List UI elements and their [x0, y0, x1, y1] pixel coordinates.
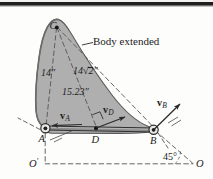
vector-label-vA: vA [60, 111, 70, 122]
dimension-label-CB: 14√2″ [73, 66, 98, 76]
angle-label-45: 45° [163, 152, 177, 162]
point-label-C: C [50, 21, 57, 32]
page-edge-artifact [0, 0, 213, 6]
dimension-label-CA: 14″ [41, 68, 55, 78]
radical-overbar [88, 67, 93, 68]
dimension-CB-prefix: 14 [73, 65, 83, 76]
vector-vA-subscript: A [65, 114, 70, 123]
point-label-A: A [39, 134, 45, 145]
vector-vB-subscript: B [162, 101, 167, 110]
point-label-O: O [196, 159, 204, 170]
body-extended-label: Body extended [93, 36, 159, 47]
pin-joint-A [41, 124, 50, 133]
point-label-D: D [92, 135, 100, 146]
figure-container: C A D B O′ O 14″ 14√2″ 15.23″ vA vD vB B… [0, 0, 213, 179]
vector-label-vB: vB [157, 98, 167, 109]
vector-label-vD: vD [103, 105, 114, 116]
dimension-CB-suffix: ″ [94, 65, 98, 76]
dimension-label-CD: 15.23″ [62, 87, 89, 97]
point-label-B: B [150, 136, 156, 147]
prime-mark: ′ [37, 157, 39, 166]
vector-vD-subscript: D [108, 108, 113, 117]
leader-line-body-extended [82, 43, 93, 46]
guide-line-A [18, 118, 40, 130]
point-label-O-prime: O′ [29, 158, 38, 169]
point-label-O-prime-text: O [29, 158, 37, 169]
kinematics-diagram-svg [0, 0, 213, 179]
